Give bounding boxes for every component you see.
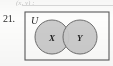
figure-page: (x, y) : 21. U X Y xyxy=(0,0,113,66)
universe-label: U xyxy=(31,15,39,26)
exercise-number: 21. xyxy=(3,14,15,24)
clipped-line-rule xyxy=(22,5,113,6)
set-label-x: X xyxy=(48,33,56,43)
venn-diagram: U X Y xyxy=(24,11,110,61)
